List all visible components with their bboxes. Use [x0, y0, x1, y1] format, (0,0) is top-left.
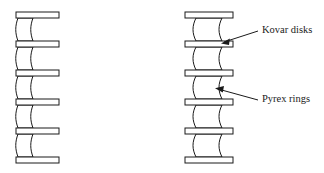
left-pyrex-ring-group	[16, 18, 33, 157]
pyrex-ring	[16, 76, 33, 99]
pyrex-ring	[16, 47, 33, 70]
kovar-disks-label: Kovar disks	[262, 24, 312, 35]
pyrex-ring	[193, 134, 222, 157]
kovar-disk	[185, 99, 233, 105]
left-assembly	[16, 12, 59, 163]
kovar-disk	[185, 157, 233, 163]
kovar-disk	[185, 70, 233, 76]
kovar-disk	[16, 70, 59, 76]
pyrex-ring	[193, 105, 222, 128]
pyrex-leader-line	[218, 89, 258, 100]
kovar-disk	[16, 157, 59, 163]
pyrex-ring	[193, 76, 222, 99]
kovar-disk	[16, 12, 59, 18]
kovar-disk	[185, 12, 233, 18]
kovar-disk	[185, 128, 233, 134]
stack-assembly-diagram: Kovar disks Pyrex rings	[0, 0, 324, 173]
kovar-disk	[16, 128, 59, 134]
pyrex-ring	[193, 18, 222, 41]
annotation-kovar-disks: Kovar disks	[221, 24, 312, 45]
pyrex-ring	[16, 134, 33, 157]
pyrex-ring	[16, 18, 33, 41]
kovar-disk	[16, 99, 59, 105]
pyrex-ring	[193, 47, 222, 70]
pyrex-ring	[16, 105, 33, 128]
right-assembly	[185, 12, 233, 163]
pyrex-rings-label: Pyrex rings	[262, 93, 310, 104]
kovar-disk	[16, 41, 59, 47]
right-pyrex-ring-group	[193, 18, 222, 157]
figure-canvas: Kovar disks Pyrex rings	[0, 0, 324, 173]
